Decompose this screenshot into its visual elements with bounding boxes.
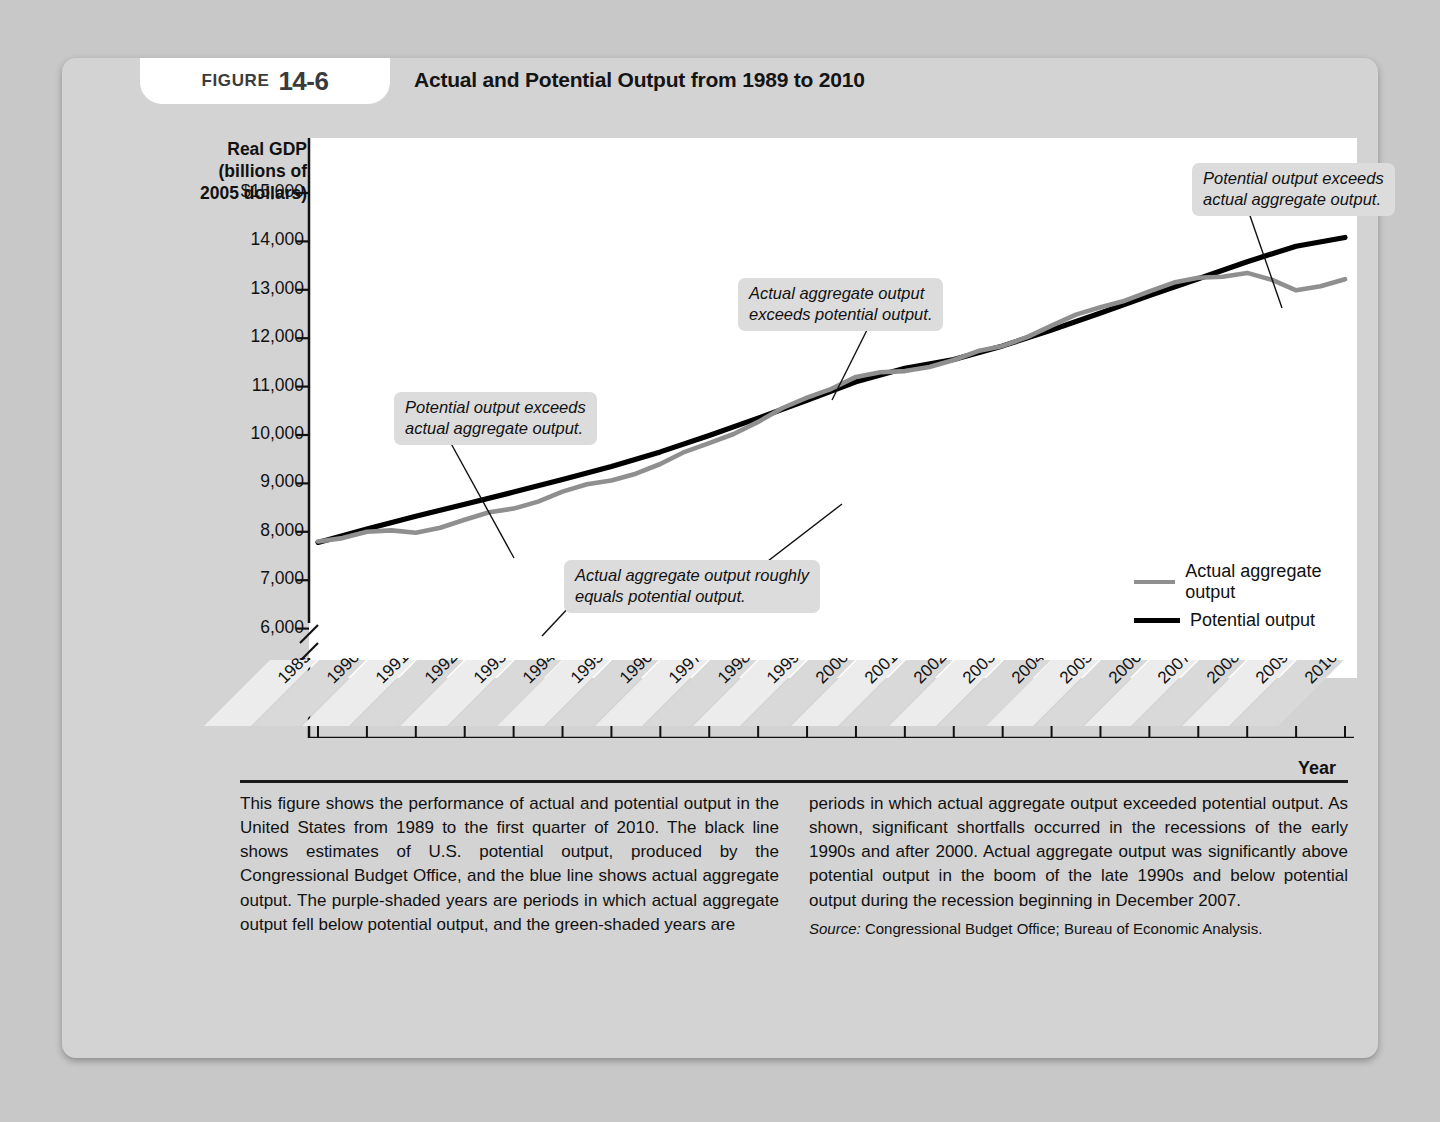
annotation-line-1: Actual aggregate output — [749, 283, 932, 304]
annotation-potential-exceeds-actual-early: Potential output exceeds actual aggregat… — [394, 392, 597, 445]
caption-column-left: This figure shows the performance of act… — [240, 792, 779, 937]
chart-plot-area: Real GDP (billions of 2005 dollars) $15,… — [242, 138, 1357, 738]
annotation-line-2: exceeds potential output. — [749, 304, 932, 325]
annotation-line-2: actual aggregate output. — [1203, 189, 1384, 210]
annotation-line-1: Potential output exceeds — [405, 397, 586, 418]
caption-source: Source: Congressional Budget Office; Bur… — [809, 920, 1348, 937]
legend-item-actual: Actual aggregate output — [1134, 561, 1357, 603]
legend-swatch-actual-icon — [1134, 580, 1175, 584]
axis-break-icon — [300, 625, 318, 661]
annotation-roughly-equal: Actual aggregate output roughly equals p… — [564, 560, 820, 613]
chart-legend: Actual aggregate output Potential output — [1134, 561, 1357, 638]
annotation-line-1: Actual aggregate output roughly — [575, 565, 809, 586]
legend-item-potential: Potential output — [1134, 610, 1357, 631]
caption-column-right: periods in which actual aggregate output… — [809, 792, 1348, 937]
legend-swatch-potential-icon — [1134, 618, 1180, 623]
legend-label-actual: Actual aggregate output — [1185, 561, 1357, 603]
y-axis-ticks — [296, 193, 309, 629]
annotation-line-2: equals potential output. — [575, 586, 809, 607]
x-axis-title: Year — [1298, 758, 1336, 779]
annotation-potential-exceeds-actual-late: Potential output exceeds actual aggregat… — [1192, 163, 1395, 216]
caption-source-text: Congressional Budget Office; Bureau of E… — [865, 920, 1262, 937]
annotation-actual-exceeds-potential: Actual aggregate output exceeds potentia… — [738, 278, 943, 331]
annotation-line-2: actual aggregate output. — [405, 418, 586, 439]
annotation-line-1: Potential output exceeds — [1203, 168, 1384, 189]
figure-title: Actual and Potential Output from 1989 to… — [414, 68, 865, 92]
figure-number: 14-6 — [278, 66, 328, 97]
legend-label-potential: Potential output — [1190, 610, 1315, 631]
caption-text-right: periods in which actual aggregate output… — [809, 792, 1348, 913]
caption-source-label: Source: — [809, 920, 861, 937]
figure-number-badge: FIGURE 14-6 — [140, 58, 390, 104]
caption-text-left: This figure shows the performance of act… — [240, 792, 779, 937]
caption-divider — [240, 780, 1348, 783]
figure-word: FIGURE — [202, 71, 270, 91]
figure-caption: This figure shows the performance of act… — [240, 780, 1348, 937]
figure-card: FIGURE 14-6 Actual and Potential Output … — [62, 58, 1378, 1058]
x-axis-year-band: 1989199019911992199319941995199619971998… — [62, 658, 1378, 754]
